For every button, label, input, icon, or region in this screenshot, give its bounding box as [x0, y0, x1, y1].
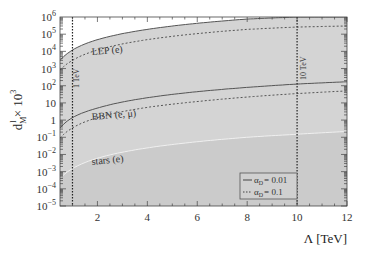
y-tick-label: 105	[41, 26, 56, 40]
y-tick-label: 106	[41, 9, 56, 23]
y-tick-label: 10−1	[36, 129, 56, 143]
y-tick-label: 10−5	[36, 198, 56, 212]
exclusion-chart: 2468101210−510−410−310−210−1110102103104…	[0, 0, 368, 253]
svg-text:dMl × 103: dMl × 103	[9, 90, 28, 131]
ref-label-10tev: 10 TeV	[299, 56, 308, 80]
y-tick-label: 10	[45, 97, 57, 109]
y-tick-label: 102	[41, 78, 56, 92]
x-tick-label: 12	[342, 211, 353, 223]
ref-label-1tev: 1 TeV	[72, 68, 81, 88]
x-tick-label: 8	[244, 211, 250, 223]
x-tick-label: 6	[195, 211, 201, 223]
legend-solid-label: = 0.01	[264, 175, 287, 185]
svg-text:αD= 0.1: αD= 0.1	[254, 187, 283, 198]
x-tick-label: 4	[145, 211, 151, 223]
legend: αD= 0.01 αD= 0.1	[240, 173, 297, 199]
x-tick-label: 10	[292, 211, 304, 223]
legend-dashed-label: = 0.1	[264, 187, 283, 197]
y-tick-label: 1	[51, 114, 57, 126]
y-tick-label: 103	[41, 61, 56, 75]
x-tick-label: 2	[95, 211, 101, 223]
y-tick-label: 10−4	[36, 181, 56, 195]
y-tick-label: 104	[41, 43, 56, 57]
y-tick-label: 10−2	[36, 146, 56, 160]
y-axis-title: dMl × 103	[9, 90, 28, 131]
x-axis-title: Λ [TeV]	[304, 231, 347, 246]
y-tick-label: 10−3	[36, 164, 56, 178]
